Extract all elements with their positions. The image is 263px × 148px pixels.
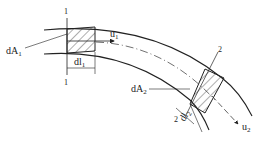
streamtube-diagram: 1 1 dA1 dl1 u1 2 2 dA2 dl2 u2 [0,0,263,148]
velocity-label-1: u1 [110,28,119,41]
length-label-1: dl1 [74,56,86,69]
velocity-label-2: u2 [242,121,251,134]
section-1-top-marker: 1 [64,7,68,16]
element-section-1 [25,18,114,75]
section-2-top-marker: 2 [218,45,222,54]
area-label-2: dA2 [131,83,147,96]
element-section-2 [149,52,238,132]
section-1-bottom-marker: 1 [64,78,68,87]
area-label-1: dA1 [6,45,22,58]
